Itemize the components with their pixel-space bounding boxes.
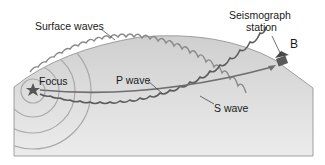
station-leader bbox=[272, 36, 281, 55]
focus-label: Focus bbox=[39, 75, 68, 87]
s-wave-label: S wave bbox=[214, 102, 249, 114]
station-id-label: B bbox=[290, 37, 298, 51]
seismic-wave-diagram: Surface waves Seismograph station B Focu… bbox=[0, 0, 325, 165]
surface-waves-label: Surface waves bbox=[35, 20, 104, 32]
seismograph-label-line1: Seismograph bbox=[229, 9, 291, 21]
seismograph-label-line2: station bbox=[246, 21, 277, 33]
p-wave-label: P wave bbox=[116, 74, 150, 86]
